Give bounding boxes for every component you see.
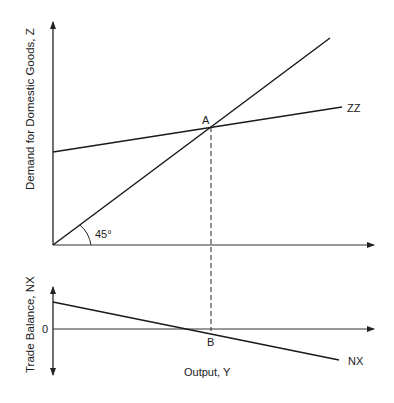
zz-label: ZZ [347, 102, 361, 114]
zz-line [53, 107, 342, 152]
nx-axis-label: Trade Balance, NX [24, 276, 36, 373]
top-panel: 45° ZZ A Demand for Domestic Goods, Z [24, 22, 374, 245]
goods-market-diagram: 45° ZZ A Demand for Domestic Goods, Z 0 … [0, 0, 394, 403]
bottom-panel: 0 NX B Output, Y Trade Balance, NX [24, 276, 374, 378]
nx-label: NX [348, 355, 364, 367]
z-axis-label: Demand for Domestic Goods, Z [24, 28, 36, 190]
angle-label: 45° [95, 228, 112, 240]
angle-arc [80, 225, 91, 245]
zero-label: 0 [42, 323, 48, 335]
nx-line [53, 302, 339, 360]
forty-five-degree-line [53, 38, 330, 245]
point-b-label: B [207, 336, 214, 348]
output-axis-label: Output, Y [184, 366, 231, 378]
point-a-label: A [202, 114, 210, 126]
